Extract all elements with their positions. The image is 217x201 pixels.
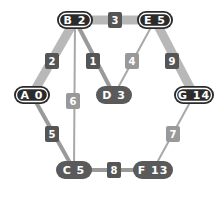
- node-b[interactable]: B 2: [57, 11, 93, 29]
- graph-diagram: 321649587 B 2E 5A 0D 3G 14C 5F 13: [0, 0, 217, 201]
- edge-weight-label: 5: [45, 126, 59, 142]
- edge-weight-label: 9: [165, 53, 179, 69]
- node-f[interactable]: F 13: [133, 161, 173, 179]
- edge-weight-text: 7: [170, 129, 177, 140]
- node-g[interactable]: G 14: [174, 86, 214, 104]
- node-label: F 13: [138, 164, 169, 177]
- edge-weight-text: 8: [111, 165, 118, 176]
- edge-weight-label: 7: [166, 126, 180, 142]
- edge-weight-text: 3: [112, 15, 119, 26]
- edge-weight-label: 8: [107, 162, 121, 178]
- edge-weight-text: 9: [169, 56, 176, 67]
- node-label: C 5: [63, 164, 86, 177]
- node-e[interactable]: E 5: [137, 11, 173, 29]
- edge-weight-text: 2: [49, 56, 56, 67]
- nodes-layer: B 2E 5A 0D 3G 14C 5F 13: [14, 11, 214, 179]
- node-label: E 5: [144, 14, 166, 27]
- node-d[interactable]: D 3: [96, 86, 132, 104]
- edge-weight-label: 1: [86, 53, 100, 69]
- node-a[interactable]: A 0: [14, 86, 50, 104]
- edge-weight-text: 1: [90, 56, 97, 67]
- node-label: D 3: [102, 89, 126, 102]
- node-label: B 2: [64, 14, 87, 27]
- edge-weight-text: 5: [49, 129, 56, 140]
- edge-weight-label: 4: [125, 53, 139, 69]
- edge-weight-text: 4: [129, 56, 136, 67]
- edge-weight-text: 6: [70, 96, 77, 107]
- node-c[interactable]: C 5: [56, 161, 92, 179]
- edge-weight-label: 6: [66, 93, 80, 109]
- node-label: G 14: [178, 89, 210, 102]
- node-label: A 0: [21, 89, 44, 102]
- edge-weight-label: 3: [108, 12, 122, 28]
- edge-weight-label: 2: [45, 53, 59, 69]
